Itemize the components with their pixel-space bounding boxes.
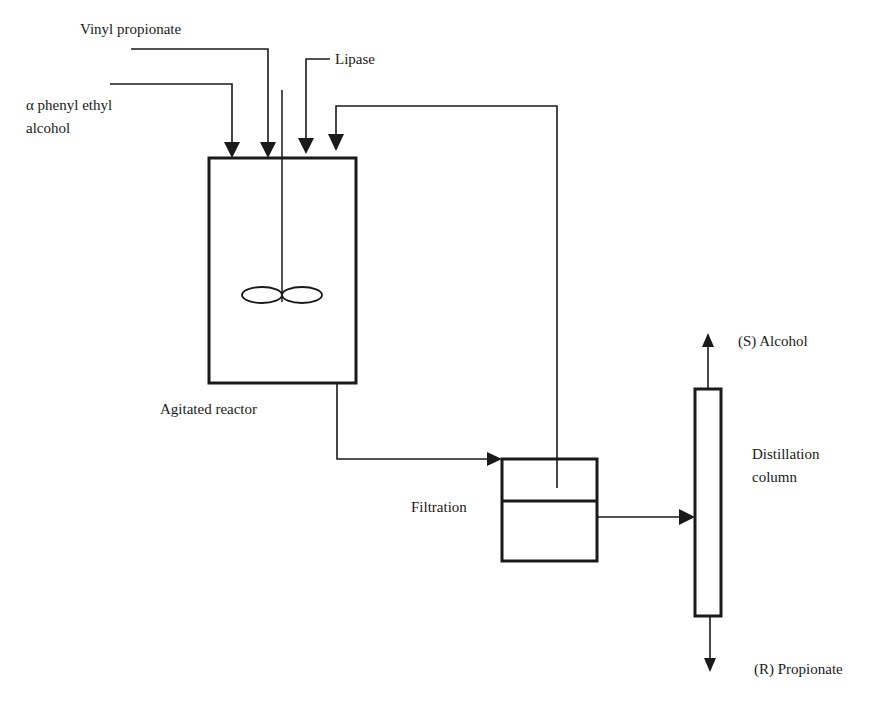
arrow-right-icon	[487, 452, 502, 466]
vinyl-propionate-stream: Vinyl propionate	[80, 21, 276, 158]
vinyl-propionate-label: Vinyl propionate	[80, 21, 182, 37]
alpha-phenyl-ethyl-alcohol-stream: α phenyl ethyl alcohol	[26, 84, 240, 158]
agitated-reactor: Agitated reactor	[160, 90, 356, 417]
r-propionate-label: (R) Propionate	[754, 661, 843, 678]
filtration-label: Filtration	[411, 499, 467, 515]
arrow-down-icon	[328, 134, 344, 151]
arrow-down-icon	[704, 658, 716, 672]
arrow-down-icon	[298, 138, 314, 154]
recycle-stream	[328, 106, 557, 488]
process-flow-diagram: Vinyl propionate α phenyl ethyl alcohol …	[0, 0, 883, 705]
alpha-phenyl-label-line2: alcohol	[26, 120, 70, 136]
filtration-unit: Filtration	[411, 459, 597, 561]
lipase-label: Lipase	[335, 51, 375, 67]
column-label-line2: column	[752, 469, 797, 485]
top-product-stream: (S) Alcohol	[702, 333, 808, 389]
filtration-to-column-stream	[597, 509, 695, 525]
reactor-to-filtration-stream	[337, 383, 502, 466]
arrow-right-icon	[679, 509, 695, 525]
alpha-phenyl-label-line1: α phenyl ethyl	[26, 97, 112, 113]
bottom-product-stream: (R) Propionate	[704, 616, 843, 678]
arrow-down-icon	[224, 142, 240, 158]
arrow-down-icon	[260, 142, 276, 158]
arrow-up-icon	[702, 333, 714, 347]
s-alcohol-label: (S) Alcohol	[738, 333, 808, 350]
distillation-column: Distillation column	[695, 389, 820, 616]
reactor-label: Agitated reactor	[160, 401, 257, 417]
column-label-line1: Distillation	[752, 446, 820, 462]
